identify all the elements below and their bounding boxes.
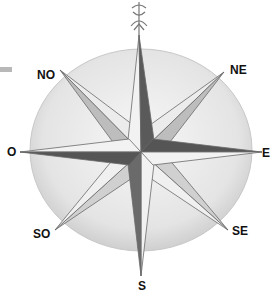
fleur-de-lis-icon — [131, 2, 147, 35]
label-so: SO — [33, 228, 50, 240]
compass-rose — [0, 0, 274, 297]
label-no: NO — [37, 69, 55, 81]
label-ne: NE — [230, 64, 247, 76]
label-se: SE — [232, 225, 248, 237]
label-o: O — [7, 146, 16, 158]
label-e: E — [262, 147, 270, 159]
label-s: S — [138, 280, 146, 292]
